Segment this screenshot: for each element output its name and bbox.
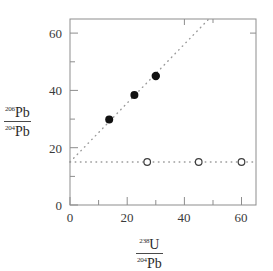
- y-axis-numerator: 206Pb: [4, 104, 31, 122]
- y-axis-fraction: 206Pb 204Pb: [4, 104, 31, 139]
- x-tick-label-40: 40: [178, 211, 191, 224]
- x-axis-title: 238U 204Pb: [136, 236, 163, 271]
- plot-frame: [70, 19, 256, 205]
- data-point-filled: [152, 72, 160, 80]
- axes-frame: [70, 19, 256, 205]
- y-tick-label-60: 60: [40, 27, 62, 40]
- filled-data-points: [105, 72, 160, 124]
- y-axis-title: 206Pb 204Pb: [4, 104, 31, 139]
- y-den-isotope: 204: [5, 124, 15, 132]
- x-minor-ticks: [99, 200, 213, 205]
- isochron-line: [70, 19, 209, 162]
- y-num-isotope: 206: [5, 105, 15, 113]
- y-minor-ticks: [70, 62, 75, 177]
- y-axis-denominator: 204Pb: [4, 122, 31, 139]
- chart-figure: 60 40 20 0 0 20 40 60 206Pb 204Pb 238U 2…: [0, 0, 273, 271]
- x-axis-denominator: 204Pb: [136, 254, 163, 271]
- data-point-open: [195, 159, 202, 166]
- data-point-filled: [105, 115, 113, 123]
- data-point-open: [144, 159, 151, 166]
- y-tick-label-20: 20: [40, 142, 62, 155]
- x-axis-fraction: 238U 204Pb: [136, 236, 163, 271]
- x-tick-label-0: 0: [67, 211, 74, 224]
- x-num-element: U: [149, 237, 159, 252]
- x-axis-numerator: 238U: [136, 236, 163, 254]
- y-tick-label-40: 40: [40, 84, 62, 97]
- x-num-isotope: 238: [139, 237, 149, 245]
- y-tick-label-0: 0: [40, 199, 62, 212]
- y-den-element: Pb: [15, 124, 30, 139]
- x-den-isotope: 204: [137, 256, 147, 264]
- data-point-filled: [130, 91, 138, 99]
- x-den-element: Pb: [147, 256, 162, 271]
- y-num-element: Pb: [15, 105, 30, 120]
- data-point-open: [238, 159, 245, 166]
- x-tick-label-20: 20: [121, 211, 134, 224]
- x-tick-label-60: 60: [235, 211, 248, 224]
- plot-canvas: [0, 0, 273, 271]
